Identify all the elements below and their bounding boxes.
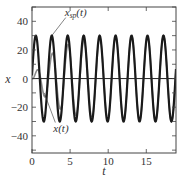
y-tick-label: 40 bbox=[17, 15, 29, 27]
annotation-leader-line bbox=[52, 18, 66, 36]
y-tick-label: 0 bbox=[23, 73, 29, 85]
y-tick-label: −40 bbox=[11, 130, 29, 142]
line-chart: 051015 −40−2002040 t x xsp(t) x(t) bbox=[0, 0, 183, 179]
y-axis-label: x bbox=[4, 72, 11, 86]
y-tick-label: −20 bbox=[11, 101, 29, 113]
annotation-x-label: x(t) bbox=[52, 122, 69, 135]
annotation-xsp-label: xsp(t) bbox=[64, 6, 87, 20]
x-tick-label: 0 bbox=[29, 155, 35, 167]
x-tick-label: 5 bbox=[67, 155, 73, 167]
annotation-xsp: xsp(t) bbox=[52, 6, 87, 36]
y-tick-label: 20 bbox=[17, 44, 29, 56]
x-tick-label: 15 bbox=[141, 155, 153, 167]
